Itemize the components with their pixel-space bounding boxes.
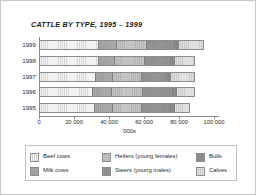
y-axis-tick-label: 1998 [22,58,36,64]
bar-segment[interactable] [99,41,117,49]
legend-label: Bulls [209,154,222,160]
legend-swatch [196,153,205,162]
legend-label: Heifers (young females) [115,154,178,160]
stacked-bar[interactable] [39,87,195,97]
x-axis-tick-label: 0 [37,120,40,126]
bar-segment[interactable] [175,104,189,112]
y-axis-tick-label: 1996 [22,89,36,95]
legend-item[interactable]: Calves [196,167,236,176]
x-axis-title: '000s [122,128,136,134]
legend-label: Beef cows [43,154,70,160]
bar-segment[interactable] [142,104,172,112]
legend-swatch [102,153,111,162]
x-axis-tick-label: 80 000 [170,120,188,126]
legend-swatch [102,167,111,176]
bar-segment[interactable] [95,104,113,112]
bar-segment[interactable] [143,88,174,96]
stacked-bar[interactable] [39,103,190,113]
y-axis-tick-label: 1995 [22,105,36,111]
legend-item[interactable]: Beef cows [30,153,102,162]
bar-segment[interactable] [179,41,203,49]
bar-row: 1995 [39,103,219,113]
bar-segment[interactable] [115,57,145,65]
bar-segment[interactable] [171,73,194,81]
bar-segment[interactable] [142,73,168,81]
x-axis-tick-label: 100 000 [204,120,225,126]
legend-item[interactable]: Heifers (young females) [102,153,196,162]
stacked-bar[interactable] [39,40,204,50]
bar-segment[interactable] [117,41,147,49]
plot-area: 19991998199719961995 [39,37,219,116]
legend-swatch [196,167,205,176]
bar-segment[interactable] [40,73,96,81]
x-axis-tick-label: 20 000 [65,120,83,126]
bar-row: 1997 [39,72,219,82]
chart-title: CATTLE BY TYPE, 1995 – 1999 [31,20,142,29]
y-axis-tick-label: 1999 [22,42,36,48]
legend-item[interactable]: Bulls [196,153,236,162]
legend-swatch [30,167,39,176]
bar-segment[interactable] [99,57,115,65]
legend-label: Calves [209,168,227,174]
bar-segment[interactable] [177,88,194,96]
bar-segment[interactable] [113,104,142,112]
bar-row: 1996 [39,87,219,97]
y-axis-tick-label: 1997 [22,74,36,80]
bar-segment[interactable] [113,73,142,81]
legend-item[interactable]: Milk cows [30,167,102,176]
stacked-bar[interactable] [39,56,195,66]
bar-segment[interactable] [40,57,99,65]
bar-row: 1998 [39,56,219,66]
stacked-bar[interactable] [39,72,195,82]
bar-segment[interactable] [175,57,194,65]
bar-segment[interactable] [145,57,172,65]
legend-label: Steers (young males) [115,168,171,174]
bar-row: 1999 [39,40,219,50]
legend-swatch [30,153,39,162]
legend-label: Milk cows [43,168,69,174]
chart-legend: Beef cowsHeifers (young females)BullsMil… [25,145,237,181]
chart-frame: CATTLE BY TYPE, 1995 – 1999 199919981997… [0,0,256,195]
bar-segment[interactable] [93,88,112,96]
bar-segment[interactable] [96,73,113,81]
legend-item[interactable]: Steers (young males) [102,167,196,176]
bar-segment[interactable] [40,88,93,96]
bar-segment[interactable] [40,104,95,112]
legend-grid: Beef cowsHeifers (young females)BullsMil… [26,146,236,180]
bar-segment[interactable] [147,41,176,49]
bar-segment[interactable] [40,41,99,49]
x-axis-line [39,116,219,117]
x-axis-tick-label: 40 000 [100,120,118,126]
bar-segment[interactable] [112,88,143,96]
x-axis-tick-label: 60 000 [135,120,153,126]
